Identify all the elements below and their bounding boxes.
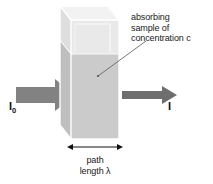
path-length-line-1: path	[62, 155, 128, 166]
incident-intensity-subscript: 0	[12, 106, 16, 115]
cuvette-side-face-filled	[60, 40, 71, 139]
callout-line-3: concentration c	[131, 33, 191, 44]
cuvette-front-face-empty	[71, 20, 119, 54]
cuvette	[60, 6, 119, 139]
path-length-line-2: length λ	[62, 166, 128, 177]
transmitted-intensity-label: I	[168, 101, 171, 112]
path-length-label: path length λ	[62, 155, 128, 176]
callout-line-1: absorbing	[131, 12, 191, 23]
absorbance-diagram: absorbing sample of concentration c path…	[0, 0, 213, 184]
callout-line-2: sample of	[131, 23, 191, 34]
sample-callout-label: absorbing sample of concentration c	[131, 12, 191, 44]
cuvette-front-face-filled	[71, 54, 119, 139]
incident-intensity-label: I0	[9, 101, 16, 114]
